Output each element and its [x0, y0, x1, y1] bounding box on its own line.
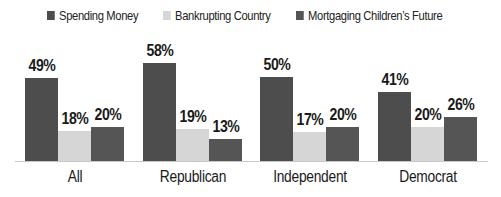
- value-label: 49%: [22, 57, 61, 75]
- bar-bankrupting-country: [58, 131, 91, 161]
- bar-spending-money: [378, 92, 411, 161]
- bar-spending-money: [143, 63, 176, 161]
- bar-mortgaging-future: [91, 127, 124, 161]
- bar-mortgaging-future: [326, 127, 359, 161]
- bar-mortgaging-future: [209, 139, 242, 161]
- value-label: 20%: [88, 106, 127, 124]
- x-axis-category-label: All: [23, 168, 126, 186]
- x-axis-category-label: Democrat: [376, 168, 479, 186]
- value-label: 41%: [375, 71, 414, 89]
- x-axis-category-label: Independent: [258, 168, 361, 186]
- bar-bankrupting-country: [293, 132, 326, 161]
- value-label: 13%: [206, 118, 245, 136]
- value-label: 20%: [323, 106, 362, 124]
- bar-spending-money: [25, 78, 58, 161]
- bar-bankrupting-country: [411, 127, 444, 161]
- x-axis-category-label: Republican: [141, 168, 244, 186]
- value-label: 58%: [140, 42, 179, 60]
- value-label: 50%: [257, 56, 296, 74]
- bar-bankrupting-country: [176, 129, 209, 161]
- bar-spending-money: [260, 77, 293, 161]
- x-axis-baseline: [15, 161, 488, 162]
- bar-chart: 49%18%20%All58%19%13%Republican50%17%20%…: [0, 0, 501, 197]
- value-label: 26%: [441, 96, 480, 114]
- bar-mortgaging-future: [444, 117, 477, 161]
